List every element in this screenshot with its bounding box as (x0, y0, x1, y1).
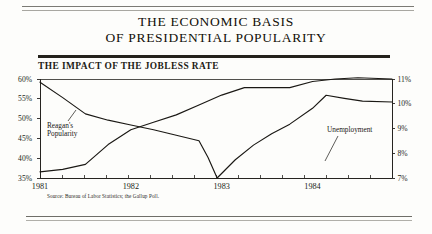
y-axis-left-tick-label: 45% (6, 134, 32, 143)
bottom-rule (26, 216, 412, 221)
y-axis-right-tick-label: 11% (398, 75, 424, 84)
reagan-popularity-annotation: Reagan'sPopularity (47, 122, 77, 139)
x-axis-tick-label: 1982 (108, 182, 154, 191)
unemployment-annotation: Unemployment (327, 126, 372, 134)
y-axis-left-tick-label: 50% (6, 114, 32, 123)
chart-source-note: Source: Bureau of Labor Statistics; the … (47, 193, 159, 199)
x-axis-tick-label: 1984 (290, 182, 336, 191)
y-axis-right-tick-label: 8% (398, 149, 424, 158)
y-axis-right-tick-label: 7% (398, 174, 424, 183)
reagan-popularity-leader-line (68, 110, 76, 121)
y-axis-left-tick-label: 55% (6, 94, 32, 103)
reagan-popularity-label-line-2: Popularity (47, 130, 77, 138)
x-axis-tick-label: 1981 (17, 182, 63, 191)
y-axis-left-tick-label: 40% (6, 154, 32, 163)
unemployment-leader-line (325, 136, 338, 161)
x-axis-tick-label: 1983 (199, 182, 245, 191)
y-axis-right-tick-label: 10% (398, 99, 424, 108)
y-axis-right-tick-label: 9% (398, 124, 424, 133)
y-axis-left-tick-label: 60% (6, 75, 32, 84)
